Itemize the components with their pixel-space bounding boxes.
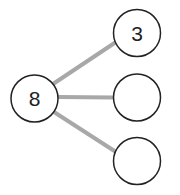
- part-circle-middle[interactable]: [114, 74, 161, 121]
- part-value-top: 3: [131, 22, 143, 45]
- number-bond-diagram: 8 3: [0, 0, 180, 195]
- connectors: [53, 42, 116, 152]
- part-circle-top[interactable]: 3: [114, 10, 161, 57]
- connector-top: [53, 42, 116, 84]
- diagram-canvas: 8 3: [0, 0, 180, 195]
- connector-middle: [58, 97, 113, 98]
- whole-value: 8: [29, 87, 41, 110]
- part-circle-bottom[interactable]: [114, 138, 161, 185]
- whole-circle: 8: [11, 75, 58, 122]
- connector-bottom: [54, 112, 116, 152]
